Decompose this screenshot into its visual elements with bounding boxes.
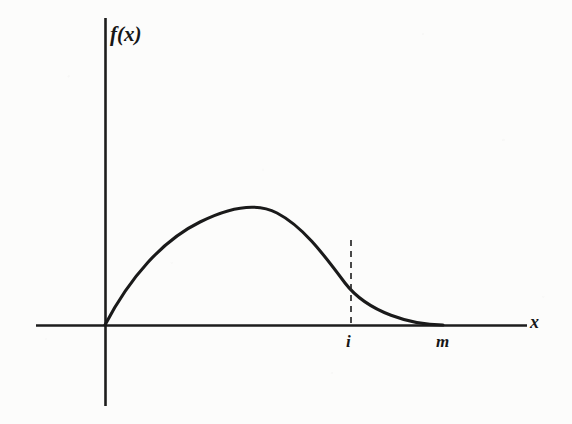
x-tick-label-m: m — [436, 332, 449, 351]
function-plot: f(x) x i m — [0, 0, 572, 424]
x-tick-label-i: i — [346, 332, 351, 351]
function-curve — [105, 207, 443, 325]
x-axis-label: x — [529, 312, 539, 332]
figure-canvas: f(x) x i m — [0, 0, 572, 424]
y-axis-label: f(x) — [110, 22, 141, 46]
